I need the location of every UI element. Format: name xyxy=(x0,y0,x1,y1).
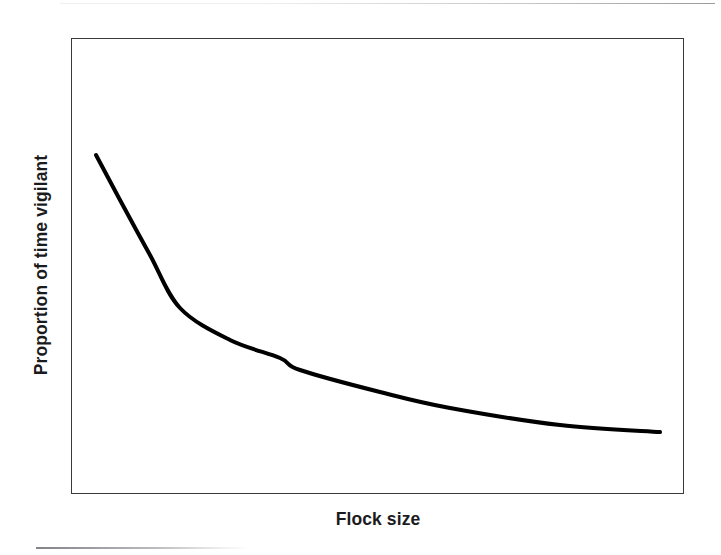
scan-artifact-bottom-line xyxy=(36,547,251,549)
plot-frame xyxy=(71,38,684,494)
x-axis-label: Flock size xyxy=(258,509,498,530)
y-axis-label: Proportion of time vigilant xyxy=(31,145,52,385)
figure-container: Proportion of time vigilant Flock size xyxy=(0,0,721,555)
scan-artifact-top-line xyxy=(60,3,715,4)
